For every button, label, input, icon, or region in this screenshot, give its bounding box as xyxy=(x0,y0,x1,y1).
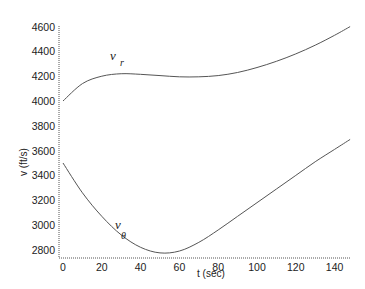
x-tick-label: 100 xyxy=(248,261,266,273)
x-tick-label: 20 xyxy=(96,261,108,273)
y-tick-label: 3000 xyxy=(32,219,56,231)
y-tick-label: 3200 xyxy=(32,194,56,206)
y-tick-label: 3800 xyxy=(32,120,56,132)
x-tick-label: 40 xyxy=(135,261,147,273)
tick-labels: 2800300032003400360038004000420044004600… xyxy=(32,21,344,273)
x-tick-label: 120 xyxy=(287,261,305,273)
axes xyxy=(59,26,350,258)
series-line-v_r xyxy=(63,27,350,101)
y-tick-label: 3400 xyxy=(32,169,56,181)
y-axis-label: v (ft/s) xyxy=(18,148,29,176)
y-tick-label: 4400 xyxy=(32,45,56,57)
y-tick-label: 4600 xyxy=(32,21,56,33)
y-tick-label: 3600 xyxy=(32,145,56,157)
series-line-v_theta xyxy=(63,139,350,253)
series-label-sub: r xyxy=(120,57,124,68)
series-labels: vrvθ xyxy=(110,48,126,241)
x-tick-label: 140 xyxy=(326,261,344,273)
x-axis-label: t (sec) xyxy=(197,268,225,279)
y-tick-label: 4200 xyxy=(32,70,56,82)
y-tick-label: 2800 xyxy=(32,244,56,256)
series-label-sub: θ xyxy=(121,230,126,241)
series-label-v_r: v xyxy=(110,48,116,63)
line-chart: 2800300032003400360038004000420044004600… xyxy=(0,0,365,289)
y-tick-label: 4000 xyxy=(32,95,56,107)
x-tick-label: 60 xyxy=(174,261,186,273)
series-lines xyxy=(63,27,350,254)
x-tick-label: 0 xyxy=(60,261,66,273)
